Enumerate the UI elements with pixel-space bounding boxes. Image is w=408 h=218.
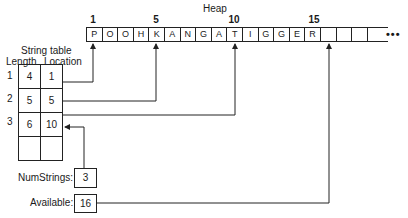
arrow-row3-to-heap10 xyxy=(62,44,235,115)
arrow-available-to-heap16 xyxy=(96,44,329,203)
arrow-numstrings-to-row3 xyxy=(65,127,84,168)
pointer-arrows xyxy=(0,0,408,218)
arrow-row1-to-heap1 xyxy=(62,44,93,82)
arrow-row2-to-heap5 xyxy=(62,44,156,101)
